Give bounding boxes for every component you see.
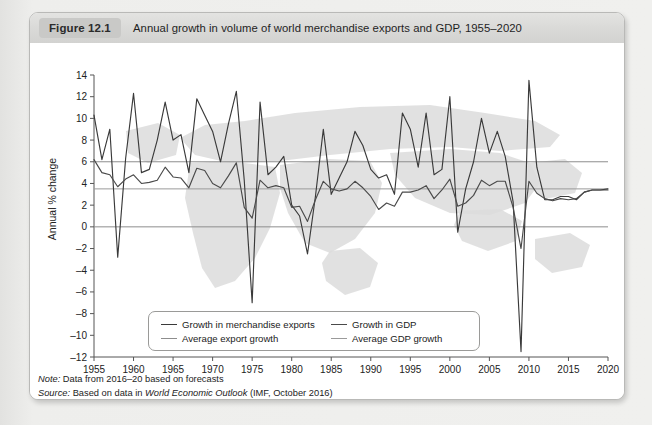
legend-item-exports: Growth in merchandise exports <box>161 319 315 330</box>
figure-title-bar: Figure 12.1 Annual growth in volume of w… <box>30 13 624 44</box>
legend-label-avg-exports: Average export growth <box>182 333 278 344</box>
figure-notes: Note: Data from 2016–20 based on forecas… <box>38 373 618 400</box>
legend-label-exports: Growth in merchandise exports <box>182 319 315 330</box>
legend-item-gdp: Growth in GDP <box>331 319 417 330</box>
svg-text:6: 6 <box>81 156 87 167</box>
chart-legend: Growth in merchandise exports Growth in … <box>148 311 480 351</box>
figure-title: Annual growth in volume of world merchan… <box>133 18 616 38</box>
figure-number-badge: Figure 12.1 <box>39 18 121 38</box>
world-map-background <box>126 105 590 295</box>
svg-text:12: 12 <box>76 91 88 102</box>
legend-label-gdp: Growth in GDP <box>352 319 417 330</box>
source-text-post: (IMF, October 2016) <box>247 388 332 398</box>
legend-swatch-exports <box>161 324 177 325</box>
legend-swatch-gdp <box>331 324 347 325</box>
note-label: Note: <box>38 374 60 384</box>
chart-area: Annual % change –12–10–8–6–4–20246810121… <box>30 43 624 399</box>
svg-text:–4: –4 <box>76 265 88 276</box>
legend-swatch-avg-exports <box>161 338 177 339</box>
legend-label-avg-gdp: Average GDP growth <box>352 333 442 344</box>
note-text: Data from 2016–20 based on forecasts <box>60 374 223 384</box>
source-text-pre: Based on data in <box>70 388 145 398</box>
source-line: Source: Based on data in World Economic … <box>38 387 618 401</box>
svg-text:2: 2 <box>81 200 87 211</box>
svg-text:8: 8 <box>81 135 87 146</box>
source-label: Source: <box>38 388 70 398</box>
svg-text:10: 10 <box>76 113 88 124</box>
legend-item-avg-gdp: Average GDP growth <box>331 333 442 344</box>
page-background: Figure 12.1 Annual growth in volume of w… <box>0 0 652 425</box>
svg-text:–8: –8 <box>76 308 88 319</box>
legend-swatch-avg-gdp <box>331 338 347 339</box>
note-line: Note: Data from 2016–20 based on forecas… <box>38 373 618 387</box>
svg-text:0: 0 <box>81 221 87 232</box>
figure-card: Figure 12.1 Annual growth in volume of w… <box>29 12 625 400</box>
source-publication: World Economic Outlook <box>145 388 247 398</box>
svg-text:14: 14 <box>76 70 88 81</box>
svg-text:–10: –10 <box>70 330 87 341</box>
svg-text:–2: –2 <box>76 243 88 254</box>
legend-item-avg-exports: Average export growth <box>161 333 278 344</box>
svg-text:–12: –12 <box>70 352 87 363</box>
svg-text:4: 4 <box>81 178 87 189</box>
svg-text:–6: –6 <box>76 286 88 297</box>
